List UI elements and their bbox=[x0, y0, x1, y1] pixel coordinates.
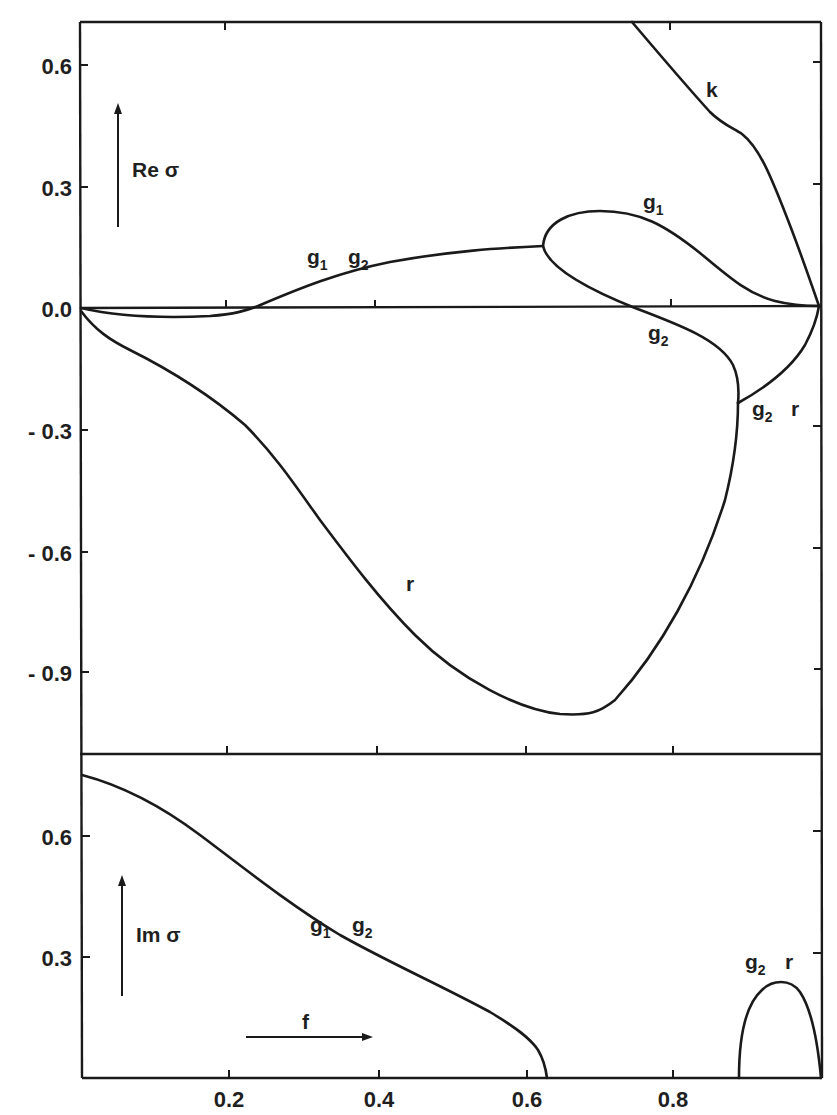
svg-text:g1: g1 bbox=[310, 913, 331, 941]
arrowhead-icon bbox=[118, 875, 126, 886]
x-tick-label: 0.6 bbox=[512, 1087, 543, 1112]
y-tick-label: - 0.9 bbox=[28, 661, 72, 686]
curve-r bbox=[81, 311, 738, 714]
svg-text:g1: g1 bbox=[643, 190, 664, 218]
upper-y-tick-labels: 0.6 0.3 0.0 - 0.3 - 0.6 - 0.9 bbox=[28, 54, 72, 686]
label-g2r-lower: g2 r bbox=[745, 950, 793, 978]
curve-g2 bbox=[543, 246, 738, 403]
svg-text:g1: g1 bbox=[307, 245, 328, 273]
y-tick-label: 0.3 bbox=[41, 176, 72, 201]
curve-g1 bbox=[543, 211, 819, 306]
f-label: f bbox=[302, 1010, 310, 1033]
svg-text:g2: g2 bbox=[745, 950, 766, 978]
arrowhead-icon bbox=[362, 1033, 373, 1041]
x-tick-label: 0.2 bbox=[214, 1087, 245, 1112]
f-axis-title: f bbox=[246, 1010, 373, 1041]
zero-line bbox=[80, 306, 821, 308]
x-tick-label: 0.8 bbox=[658, 1087, 689, 1112]
y-tick-label: 0.3 bbox=[41, 946, 72, 971]
label-g2r-upper: g2 r bbox=[752, 397, 799, 425]
re-sigma-axis-title: Re σ bbox=[114, 103, 179, 227]
ticks bbox=[80, 22, 822, 1078]
y-tick-label: 0.6 bbox=[41, 54, 72, 79]
curve-g2r-re bbox=[738, 306, 819, 403]
lower-y-tick-labels: 0.6 0.3 bbox=[41, 825, 72, 971]
label-g2-upper: g2 bbox=[648, 321, 669, 349]
curve-g2r-im bbox=[739, 982, 821, 1078]
label-k: k bbox=[706, 78, 718, 101]
label-r: r bbox=[406, 572, 414, 595]
re-sigma-label: Re σ bbox=[132, 158, 179, 181]
lower-curves bbox=[82, 775, 821, 1078]
arrowhead-icon bbox=[114, 103, 122, 114]
svg-text:g2: g2 bbox=[352, 913, 373, 941]
chart: 0.6 0.3 0.0 - 0.3 - 0.6 - 0.9 0.6 0.3 0.… bbox=[0, 0, 837, 1115]
axes-frame bbox=[80, 22, 822, 1078]
curve-k bbox=[632, 22, 819, 306]
right-border bbox=[821, 22, 822, 1078]
svg-text:r: r bbox=[785, 950, 793, 973]
im-sigma-axis-title: Im σ bbox=[118, 875, 181, 996]
label-g1-upper: g1 bbox=[643, 190, 664, 218]
lower-curve-labels: g1 g2 g2 r bbox=[310, 913, 793, 978]
x-tick-labels: 0.2 0.4 0.6 0.8 bbox=[214, 1087, 689, 1112]
y-tick-label: 0.0 bbox=[41, 297, 72, 322]
left-axis bbox=[80, 22, 82, 1078]
svg-text:g2: g2 bbox=[752, 397, 773, 425]
svg-text:r: r bbox=[791, 397, 799, 420]
upper-curve-labels: k g1 g1 g2 g2 g2 r r bbox=[307, 78, 799, 595]
y-tick-label: - 0.6 bbox=[28, 541, 72, 566]
upper-curves bbox=[81, 22, 819, 714]
im-sigma-label: Im σ bbox=[136, 923, 181, 946]
y-tick-label: - 0.3 bbox=[28, 419, 72, 444]
x-tick-label: 0.4 bbox=[364, 1087, 395, 1112]
y-tick-label: 0.6 bbox=[41, 825, 72, 850]
svg-text:g2: g2 bbox=[648, 321, 669, 349]
